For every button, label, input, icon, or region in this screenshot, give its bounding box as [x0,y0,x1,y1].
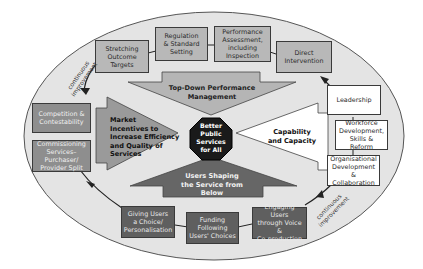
box-workforce-development: Workforce Development, Skills & Reform [335,120,388,150]
left-arrow-label: Market Incentives to Increase Efficiency… [110,116,180,159]
box-leadership: Leadership [327,85,381,115]
box-direct-intervention: Direct Intervention [276,41,332,73]
box-stretching-targets: Stretching Outcome Targets [95,40,149,73]
box-competition: Competition & Contestability [32,103,91,133]
public-service-reform-diagram: Top-Down Performance Management Market I… [0,0,423,269]
center-label: Better Public Services for All [190,122,232,154]
box-regulation: Regulation & Standard Setting [155,27,208,61]
box-organisational-development: Organisational Development & Collaborati… [327,155,380,186]
box-engaging-users: Engaging Users through Voice & Co-produc… [252,207,307,239]
top-arrow-label: Top-Down Performance Management [160,84,264,101]
box-giving-users-choice: Giving Users a Choice/ Personalisation [121,206,175,238]
box-performance-assessment: Performance Assessment, including Inspec… [214,26,271,62]
box-funding-following: Funding Following Users' Choices [186,212,239,244]
box-commissioning: Commissioning Services–Purchaser/ Provid… [32,140,91,172]
right-arrow-label: Capability and Capacity [262,128,322,145]
bottom-arrow-label: Users Shaping the Service from Below [160,172,264,198]
